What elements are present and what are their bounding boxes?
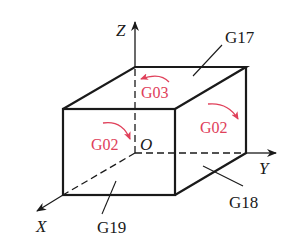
g19-label: G19	[97, 218, 126, 237]
x-axis-label: X	[35, 217, 47, 236]
x-axis	[37, 195, 63, 211]
g03-arc	[141, 76, 169, 82]
y-axis-label: Y	[259, 159, 270, 178]
g02-front-label: G02	[91, 136, 119, 153]
axes	[37, 22, 276, 211]
origin-label: O	[140, 135, 152, 154]
g19-leader	[102, 181, 116, 214]
g18-label: G18	[229, 193, 258, 212]
plane-selection-diagram: Z Y X O G17 G18 G19 G03 G02 G02	[0, 0, 291, 242]
g17-leader	[193, 45, 222, 76]
z-axis-label: Z	[116, 21, 126, 40]
g02-right-arc	[208, 104, 238, 119]
g17-label: G17	[225, 28, 255, 47]
g03-top-label: G03	[141, 84, 169, 101]
g02-right-label: G02	[200, 119, 228, 136]
front-face	[63, 109, 175, 195]
x-axis-hidden	[63, 153, 135, 195]
